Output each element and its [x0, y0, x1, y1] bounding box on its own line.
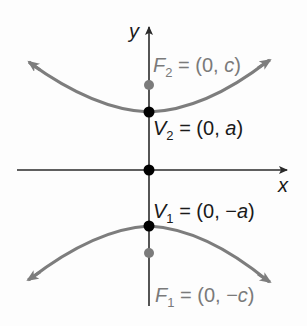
lower-left-arrow-icon — [28, 272, 40, 280]
vertex-v2-point — [144, 107, 155, 118]
upper-right-arrow-icon — [258, 60, 270, 68]
focus-f1-label: F1 = (0, −c) — [155, 284, 255, 310]
upper-left-arrow-icon — [29, 62, 40, 70]
focus-f1-point — [144, 248, 154, 258]
diagram-canvas: y x F2 = (0, c) V2 = (0, a) V1 = (0, −a)… — [0, 0, 307, 326]
focus-f2-label: F2 = (0, c) — [153, 54, 241, 80]
y-axis-label: y — [127, 20, 140, 42]
focus-f2-point — [144, 80, 154, 90]
origin-point — [144, 165, 155, 176]
x-axis-label: x — [277, 174, 289, 196]
lower-right-arrow-icon — [258, 274, 270, 282]
hyperbola-diagram: y x F2 = (0, c) V2 = (0, a) V1 = (0, −a)… — [0, 0, 307, 326]
vertex-v1-point — [144, 221, 155, 232]
vertex-v1-label: V1 = (0, −a) — [153, 200, 255, 226]
vertex-v2-label: V2 = (0, a) — [153, 117, 243, 143]
